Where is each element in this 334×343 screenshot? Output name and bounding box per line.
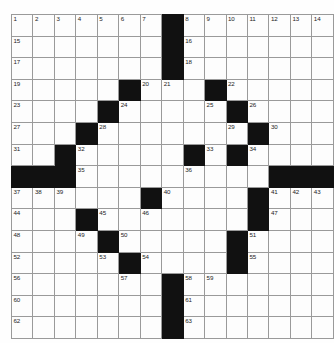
crossword-cell[interactable]	[162, 209, 183, 231]
crossword-cell[interactable]	[140, 122, 161, 144]
crossword-cell[interactable]: 33	[205, 144, 226, 166]
crossword-cell[interactable]: 20	[140, 79, 161, 101]
crossword-cell[interactable]	[119, 187, 140, 209]
crossword-cell[interactable]: 6	[119, 15, 140, 37]
crossword-cell[interactable]: 43	[312, 187, 334, 209]
crossword-cell[interactable]	[54, 101, 75, 123]
crossword-cell[interactable]	[312, 101, 334, 123]
crossword-cell[interactable]: 35	[76, 166, 97, 188]
crossword-cell[interactable]: 57	[119, 274, 140, 296]
crossword-cell[interactable]	[226, 58, 247, 80]
crossword-cell[interactable]	[205, 58, 226, 80]
crossword-cell[interactable]	[205, 122, 226, 144]
crossword-cell[interactable]	[247, 79, 268, 101]
crossword-cell[interactable]	[205, 295, 226, 317]
crossword-cell[interactable]	[54, 252, 75, 274]
crossword-cell[interactable]: 45	[97, 209, 118, 231]
crossword-cell[interactable]	[226, 317, 247, 339]
crossword-cell[interactable]	[54, 58, 75, 80]
crossword-cell[interactable]	[140, 36, 161, 58]
crossword-cell[interactable]: 62	[12, 317, 33, 339]
crossword-cell[interactable]	[290, 209, 311, 231]
crossword-cell[interactable]: 55	[247, 252, 268, 274]
crossword-cell[interactable]	[97, 295, 118, 317]
crossword-cell[interactable]	[76, 317, 97, 339]
crossword-cell[interactable]	[312, 252, 334, 274]
crossword-cell[interactable]	[33, 295, 54, 317]
crossword-cell[interactable]	[119, 209, 140, 231]
crossword-cell[interactable]: 54	[140, 252, 161, 274]
crossword-cell[interactable]: 27	[12, 122, 33, 144]
crossword-cell[interactable]	[226, 295, 247, 317]
crossword-cell[interactable]: 12	[269, 15, 290, 37]
crossword-cell[interactable]	[247, 58, 268, 80]
crossword-cell[interactable]: 53	[97, 252, 118, 274]
crossword-cell[interactable]	[119, 36, 140, 58]
crossword-cell[interactable]: 28	[97, 122, 118, 144]
crossword-cell[interactable]	[140, 166, 161, 188]
crossword-cell[interactable]: 25	[205, 101, 226, 123]
crossword-cell[interactable]	[97, 36, 118, 58]
crossword-grid[interactable]: 1234567891011121314151617181920212223242…	[11, 14, 334, 339]
crossword-cell[interactable]	[162, 144, 183, 166]
crossword-cell[interactable]	[33, 274, 54, 296]
crossword-cell[interactable]	[226, 187, 247, 209]
crossword-cell[interactable]	[33, 317, 54, 339]
crossword-cell[interactable]	[54, 230, 75, 252]
crossword-cell[interactable]: 59	[205, 274, 226, 296]
crossword-cell[interactable]	[183, 79, 204, 101]
crossword-cell[interactable]	[290, 122, 311, 144]
crossword-cell[interactable]: 24	[119, 101, 140, 123]
crossword-cell[interactable]	[140, 144, 161, 166]
crossword-cell[interactable]	[247, 317, 268, 339]
crossword-cell[interactable]	[33, 209, 54, 231]
crossword-cell[interactable]: 40	[162, 187, 183, 209]
crossword-cell[interactable]: 36	[183, 166, 204, 188]
crossword-cell[interactable]: 15	[12, 36, 33, 58]
crossword-cell[interactable]	[247, 166, 268, 188]
crossword-cell[interactable]	[162, 230, 183, 252]
crossword-cell[interactable]	[119, 58, 140, 80]
crossword-cell[interactable]	[97, 144, 118, 166]
crossword-cell[interactable]: 26	[247, 101, 268, 123]
crossword-cell[interactable]: 49	[76, 230, 97, 252]
crossword-cell[interactable]: 38	[33, 187, 54, 209]
crossword-cell[interactable]	[97, 166, 118, 188]
crossword-cell[interactable]	[226, 274, 247, 296]
crossword-cell[interactable]	[54, 122, 75, 144]
crossword-cell[interactable]	[226, 36, 247, 58]
crossword-cell[interactable]: 44	[12, 209, 33, 231]
crossword-cell[interactable]	[76, 36, 97, 58]
crossword-cell[interactable]	[97, 274, 118, 296]
crossword-cell[interactable]	[226, 209, 247, 231]
crossword-cell[interactable]: 39	[54, 187, 75, 209]
crossword-cell[interactable]	[119, 295, 140, 317]
crossword-cell[interactable]	[312, 230, 334, 252]
crossword-cell[interactable]: 37	[12, 187, 33, 209]
crossword-cell[interactable]	[183, 209, 204, 231]
crossword-cell[interactable]: 17	[12, 58, 33, 80]
crossword-cell[interactable]	[162, 101, 183, 123]
crossword-cell[interactable]: 13	[290, 15, 311, 37]
crossword-cell[interactable]: 23	[12, 101, 33, 123]
crossword-cell[interactable]	[33, 252, 54, 274]
crossword-cell[interactable]	[312, 58, 334, 80]
crossword-cell[interactable]	[312, 274, 334, 296]
crossword-cell[interactable]: 19	[12, 79, 33, 101]
crossword-cell[interactable]	[269, 101, 290, 123]
crossword-cell[interactable]	[290, 79, 311, 101]
crossword-cell[interactable]	[269, 295, 290, 317]
crossword-cell[interactable]	[76, 187, 97, 209]
crossword-cell[interactable]: 22	[226, 79, 247, 101]
crossword-cell[interactable]	[290, 274, 311, 296]
crossword-cell[interactable]: 51	[247, 230, 268, 252]
crossword-cell[interactable]	[269, 317, 290, 339]
crossword-cell[interactable]	[269, 230, 290, 252]
crossword-cell[interactable]	[54, 36, 75, 58]
crossword-cell[interactable]	[269, 144, 290, 166]
crossword-cell[interactable]	[54, 209, 75, 231]
crossword-cell[interactable]: 42	[290, 187, 311, 209]
crossword-cell[interactable]	[76, 295, 97, 317]
crossword-cell[interactable]	[205, 317, 226, 339]
crossword-cell[interactable]: 11	[247, 15, 268, 37]
